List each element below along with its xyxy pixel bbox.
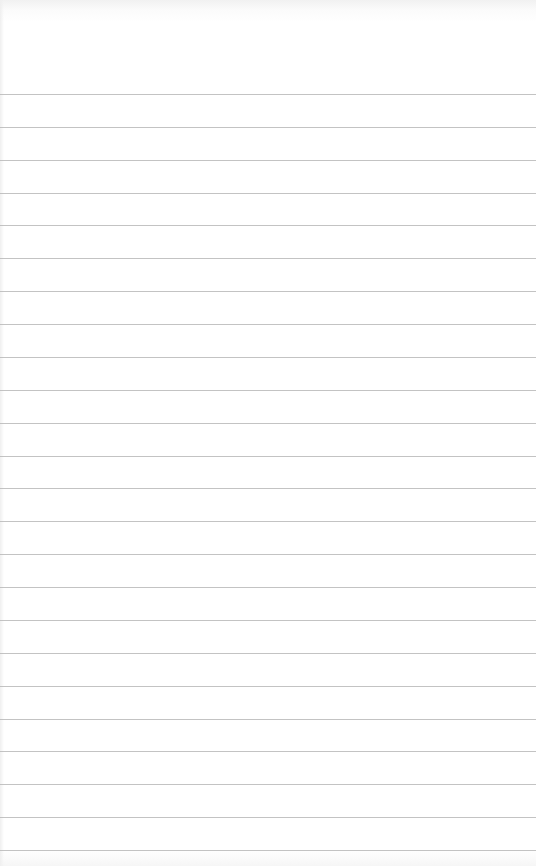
ruled-line [0,784,536,785]
ruled-line [0,817,536,818]
ruled-line [0,751,536,752]
lined-paper [0,0,536,866]
ruled-line [0,488,536,489]
ruled-line [0,193,536,194]
ruled-line [0,127,536,128]
ruled-line [0,653,536,654]
ruled-line [0,850,536,851]
ruled-line [0,291,536,292]
ruled-line [0,357,536,358]
ruled-line [0,686,536,687]
ruled-line [0,94,536,95]
ruled-line [0,620,536,621]
ruled-line [0,456,536,457]
ruled-line [0,160,536,161]
ruled-line [0,390,536,391]
ruled-line [0,225,536,226]
ruled-line [0,554,536,555]
ruled-line [0,258,536,259]
ruled-line [0,423,536,424]
ruled-line [0,521,536,522]
ruled-line [0,324,536,325]
ruled-line [0,719,536,720]
ruled-line [0,587,536,588]
